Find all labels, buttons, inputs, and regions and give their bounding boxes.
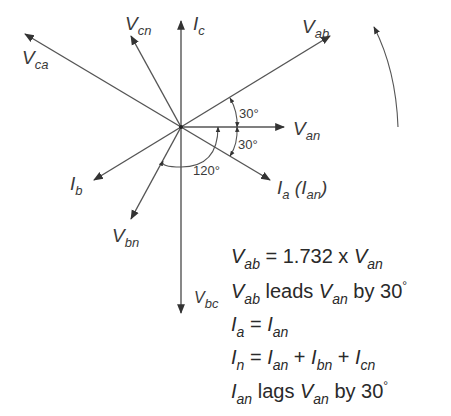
equation-line-5: Ian lags Van by 30° (231, 380, 388, 406)
angle-label-120: 120° (193, 164, 220, 177)
equation-line-3: Ia = Ian (231, 314, 288, 339)
phasor-vcn (131, 36, 181, 127)
rotation-direction-arrow (374, 27, 398, 127)
phasor-vbn (131, 127, 181, 219)
angle-label-van-ia: 30° (238, 138, 258, 151)
angle-label-vab-van: 30° (239, 107, 259, 120)
phasor-diagram (0, 0, 451, 416)
label-ib: Ib (70, 174, 83, 197)
label-ia: Ia (Ian) (277, 178, 327, 201)
label-vbn: Vbn (112, 226, 139, 249)
label-vca: Vca (22, 48, 48, 71)
label-vcn: Vcn (125, 14, 151, 37)
equation-line-1: Vab = 1.732 x Van (231, 246, 383, 271)
label-vab: Vab (302, 17, 329, 40)
origin-dot (179, 125, 183, 129)
angle-arc-vab-van (230, 98, 237, 127)
phasor-ib (94, 127, 181, 180)
label-ic: Ic (193, 14, 205, 37)
angle-arc-van-ia (230, 127, 237, 156)
equation-line-4: In = Ian + Ibn + Icn (231, 347, 375, 372)
label-vbc: Vbc (194, 290, 218, 310)
label-van: Van (293, 119, 320, 142)
equation-line-2: Vab leads Van by 30° (231, 280, 407, 306)
